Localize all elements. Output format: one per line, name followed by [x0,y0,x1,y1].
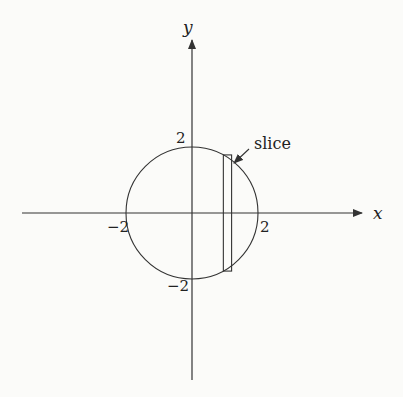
x-axis-label: x [373,203,383,223]
slice-pointer-arrow [234,149,249,163]
tick-label-y-neg2: −2 [167,277,189,295]
slice-label: slice [254,134,291,153]
y-axis-label: y [182,17,193,37]
circle-slice-diagram: y x slice −2 2 2 −2 [0,0,403,397]
tick-label-x-neg2: −2 [107,218,129,236]
tick-label-y-pos2: 2 [176,129,186,147]
tick-label-x-pos2: 2 [260,218,270,236]
